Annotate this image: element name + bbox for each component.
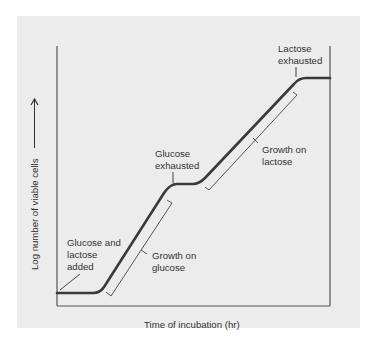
y-axis-label: Log number of viable cells [29,158,40,270]
diauxic-growth-diagram: Log number of viable cells Time of incub… [0,0,380,352]
svg-text:Glucose: Glucose [155,148,190,159]
svg-text:exhausted: exhausted [278,55,322,66]
svg-text:Growth on: Growth on [262,144,306,155]
annotation-start: Glucose and lactose added [67,237,121,272]
svg-text:Growth on: Growth on [152,250,196,261]
annotation-growth-glucose: Growth on glucose [152,250,196,273]
y-axis-label-group: Log number of viable cells [29,99,40,270]
svg-text:glucose: glucose [152,262,185,273]
axes-frame [57,46,330,306]
svg-text:lactose: lactose [67,249,97,260]
bracket-growth-glucose [106,200,172,296]
start-pointer [60,274,80,290]
svg-text:Glucose and: Glucose and [67,237,121,248]
annotation-glucose-exhausted: Glucose exhausted [155,148,199,171]
svg-text:lactose: lactose [262,156,292,167]
svg-text:exhausted: exhausted [155,160,199,171]
svg-text:Lactose: Lactose [278,43,312,54]
x-axis-label: Time of incubation (hr) [144,319,240,330]
bracket-growth-lactose [205,92,297,190]
svg-text:added: added [67,261,94,272]
annotation-growth-lactose: Growth on lactose [262,144,306,167]
annotation-lactose-exhausted: Lactose exhausted [278,43,322,66]
